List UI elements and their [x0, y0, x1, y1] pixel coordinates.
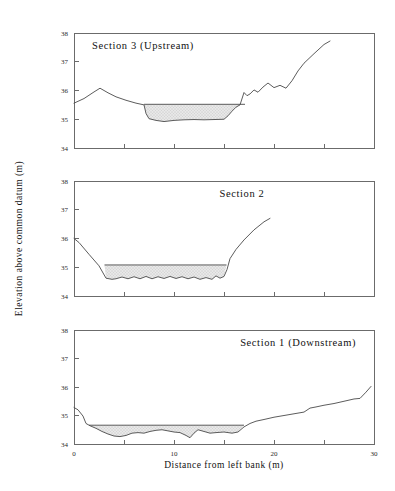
panel-section-1: 34353637380102030Section 1 (Downstream) [61, 327, 378, 458]
y-tick-label: 34 [61, 441, 69, 449]
y-tick-label: 36 [61, 87, 69, 95]
x-tick-label: 0 [72, 450, 76, 458]
x-axis-title: Distance from left bank (m) [164, 460, 284, 471]
y-tick-label: 38 [61, 178, 69, 186]
y-tick-label: 37 [61, 355, 69, 363]
y-axis-title: Elevation above common datum (m) [14, 161, 25, 316]
y-tick-label: 35 [61, 264, 69, 272]
y-tick-label: 35 [61, 116, 69, 124]
panel-section-3: 3435363738Section 3 (Upstream) [61, 30, 374, 153]
y-tick-label: 36 [61, 384, 69, 392]
y-tick-label: 37 [61, 58, 69, 66]
y-tick-label: 38 [61, 30, 69, 38]
panel-title: Section 2 [220, 188, 265, 199]
y-tick-label: 35 [61, 412, 69, 420]
panel-title: Section 1 (Downstream) [240, 337, 356, 349]
y-tick-label: 38 [61, 327, 69, 335]
y-tick-label: 37 [61, 206, 69, 214]
y-tick-label: 34 [61, 145, 69, 153]
chart-canvas: 3435363738Section 3 (Upstream)3435363738… [0, 0, 395, 491]
x-tick-label: 30 [371, 450, 379, 458]
y-tick-label: 34 [61, 293, 69, 301]
panel-title: Section 3 (Upstream) [92, 40, 194, 52]
x-tick-label: 20 [271, 450, 279, 458]
x-tick-label: 10 [171, 450, 179, 458]
water-area-fill [144, 104, 245, 121]
panel-section-2: 3435363738Section 2 [61, 178, 374, 301]
cross-section-figure: 3435363738Section 3 (Upstream)3435363738… [0, 0, 395, 491]
y-tick-label: 36 [61, 235, 69, 243]
